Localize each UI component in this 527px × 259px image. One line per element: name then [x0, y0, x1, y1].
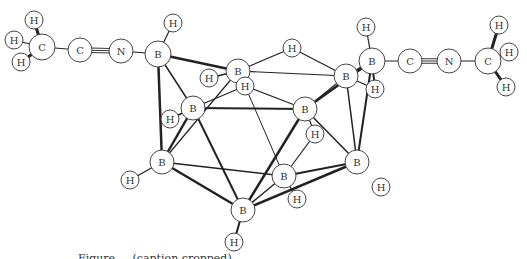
atom-h: H	[500, 43, 518, 61]
atom-h: H	[164, 14, 182, 32]
atom-label: H	[495, 20, 504, 31]
atom-label: B	[234, 66, 241, 77]
atom-b: B	[181, 96, 205, 120]
atom-n: N	[109, 39, 133, 63]
atom-label: H	[126, 175, 135, 186]
atom-b: B	[150, 150, 174, 174]
atom-label: B	[301, 104, 308, 115]
atom-label: B	[342, 71, 349, 82]
atom-label: H	[288, 43, 297, 54]
atom-h: H	[225, 233, 243, 251]
atom-h: H	[200, 69, 218, 87]
atom-b: B	[145, 41, 171, 67]
atom-b: B	[359, 48, 385, 74]
atom-label: H	[169, 18, 178, 29]
atom-label: H	[377, 182, 386, 193]
atom-b: B	[231, 198, 255, 222]
atom-label: N	[445, 56, 454, 67]
atom-label: C	[484, 56, 492, 67]
atom-label: N	[117, 46, 126, 57]
bond-line	[357, 61, 372, 162]
atom-h: H	[490, 16, 508, 34]
atom-h: H	[366, 80, 384, 98]
atom-label: B	[280, 171, 287, 182]
atom-label: B	[154, 49, 161, 60]
atom-label: H	[205, 73, 214, 84]
atom-label: H	[241, 81, 250, 92]
atom-label: C	[38, 42, 46, 53]
atom-label: H	[371, 84, 380, 95]
atom-label: H	[311, 129, 320, 140]
atom-label: H	[362, 22, 371, 33]
atom-b: B	[334, 64, 358, 88]
bond-line	[193, 108, 305, 109]
bond-line	[346, 76, 357, 162]
atom-label: H	[30, 15, 39, 26]
atom-b: B	[345, 150, 369, 174]
atom-b: B	[293, 97, 317, 121]
atom-label: H	[230, 237, 239, 248]
atom-c: C	[398, 49, 422, 73]
atom-h: H	[306, 125, 324, 143]
atom-label: H	[17, 57, 26, 68]
atom-h: H	[497, 78, 515, 96]
atom-label: B	[158, 157, 165, 168]
atom-label: B	[189, 103, 196, 114]
atom-h: H	[25, 11, 43, 29]
atom-label: H	[502, 82, 511, 93]
bond-line	[238, 71, 346, 76]
atom-h: H	[357, 18, 375, 36]
atom-h: H	[121, 171, 139, 189]
atom-label: B	[353, 157, 360, 168]
atom-label: B	[239, 205, 246, 216]
atom-label: H	[166, 114, 175, 125]
atom-c: C	[68, 38, 92, 62]
atom-label: C	[406, 56, 414, 67]
atom-h: H	[283, 39, 301, 57]
atom-h: H	[12, 53, 30, 71]
atom-b: B	[272, 164, 296, 188]
bond-line	[245, 86, 284, 176]
atom-label: B	[368, 56, 375, 67]
atom-n: N	[437, 49, 461, 73]
atom-label: H	[505, 47, 514, 58]
atom-c: C	[475, 48, 501, 74]
molecule-diagram: HHHCCNBHBHHHBHBHBHBHBHBHBBHHCNCHHH	[0, 0, 527, 259]
atom-label: H	[293, 194, 302, 205]
atom-label: C	[76, 45, 84, 56]
atom-h: H	[288, 190, 306, 208]
atom-h: H	[5, 31, 23, 49]
atom-h: H	[236, 77, 254, 95]
atom-h: H	[161, 110, 179, 128]
atom-h: H	[372, 178, 390, 196]
atom-c: C	[29, 34, 55, 60]
figure-caption: Figure ... (caption cropped)	[78, 252, 232, 259]
atom-layer: HHHCCNBHBHHHBHBHBHBHBHBHBBHHCNCHHH	[5, 11, 518, 251]
atom-label: H	[10, 35, 19, 46]
bond-line	[158, 54, 162, 162]
